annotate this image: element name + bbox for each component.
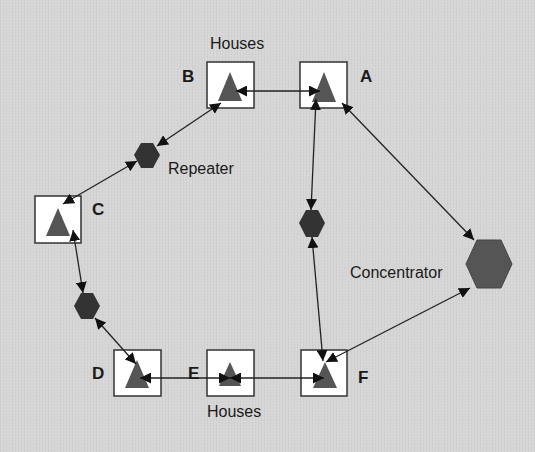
house-E-label: E xyxy=(188,365,199,382)
house-F xyxy=(301,350,347,396)
house-F-label: F xyxy=(358,369,368,386)
house-A-label: A xyxy=(360,68,372,85)
house-E xyxy=(207,350,254,396)
link-R2-F xyxy=(312,237,323,361)
repeater-label: Repeater xyxy=(168,161,234,177)
house-D xyxy=(114,350,161,396)
link-B-R1 xyxy=(157,103,221,146)
house-A xyxy=(300,62,347,108)
repeater-hexagon-icon xyxy=(134,143,160,168)
link-A-concentrator xyxy=(342,103,474,240)
link-F-concentrator xyxy=(326,288,470,362)
house-B-label: B xyxy=(182,68,194,85)
houses-top-label: Houses xyxy=(210,36,264,52)
house-D-label: D xyxy=(92,365,104,382)
network-diagram xyxy=(0,0,535,452)
diagram-canvas: Houses Houses Repeater Concentrator A B … xyxy=(0,0,535,452)
repeater-hexagon-icon xyxy=(299,210,325,237)
house-C-label: C xyxy=(92,201,104,218)
house-B xyxy=(207,62,254,108)
houses-bottom-label: Houses xyxy=(207,404,261,420)
concentrator-hexagon-icon xyxy=(466,240,512,288)
concentrator-label: Concentrator xyxy=(350,265,443,281)
repeater-hexagon-icon xyxy=(74,293,100,319)
link-R1-C xyxy=(63,161,137,204)
link-A-R2 xyxy=(311,99,316,210)
